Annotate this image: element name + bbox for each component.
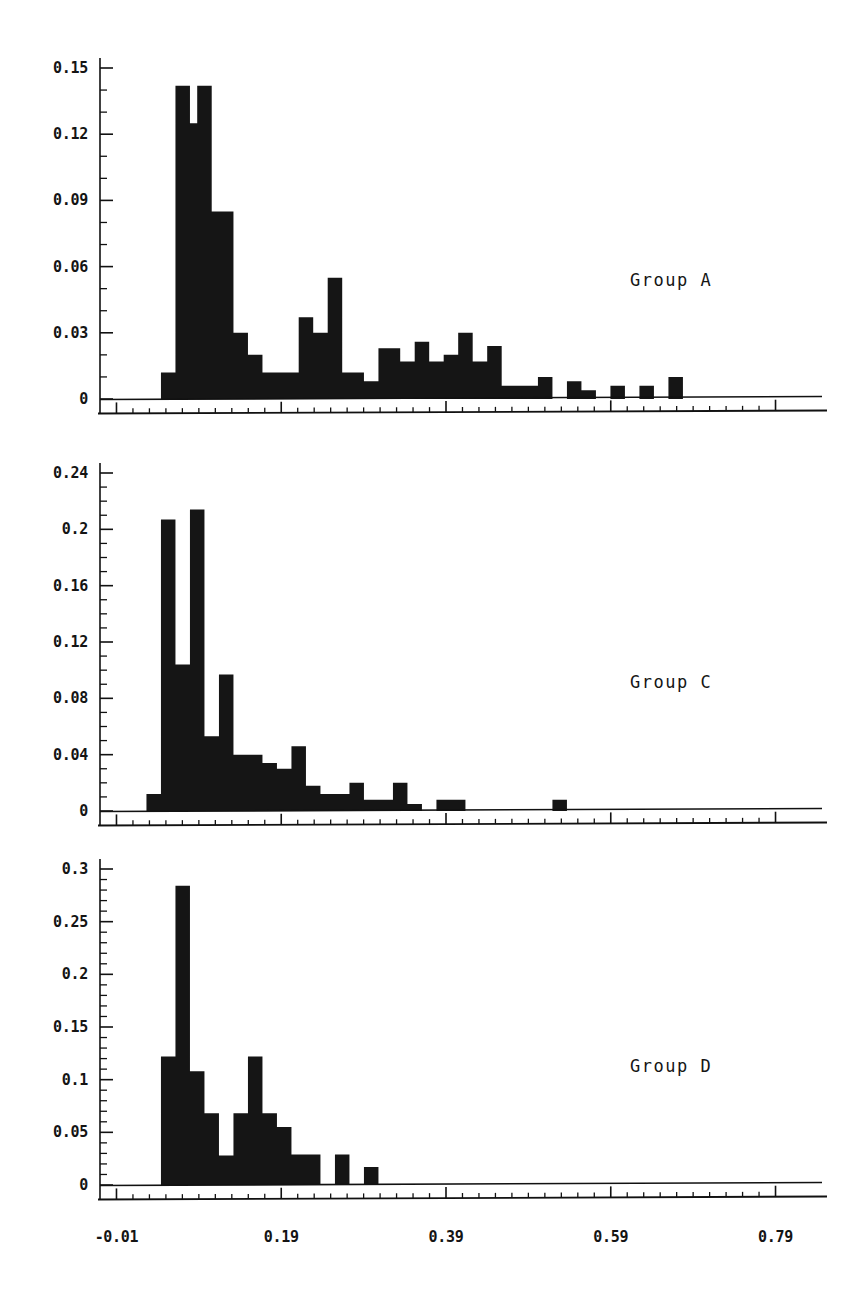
x-tick-label: -0.01 <box>76 1228 156 1246</box>
histogram-bars <box>132 86 741 399</box>
y-tick-label: 0.12 <box>53 633 88 651</box>
y-tick-label: 0.12 <box>53 125 88 143</box>
group-label-d: Group D <box>630 1056 712 1076</box>
y-tick-label: 0.05 <box>53 1123 88 1141</box>
y-tick-label: 0 <box>79 802 88 820</box>
y-tick-label: 0.24 <box>53 464 88 482</box>
plot-area-group-c <box>0 430 868 840</box>
plot-area-group-a <box>0 0 868 430</box>
y-tick-label: 0.3 <box>62 860 88 878</box>
y-tick-label: 0.06 <box>53 258 88 276</box>
y-tick-label: 0 <box>79 390 88 408</box>
y-tick-label: 0.08 <box>53 689 88 707</box>
x-tick-label: 0.19 <box>241 1228 321 1246</box>
y-tick-label: 0.25 <box>53 913 88 931</box>
y-tick-label: 0.1 <box>62 1071 88 1089</box>
y-tick-label: 0 <box>79 1176 88 1194</box>
x-tick-label: 0.79 <box>736 1228 816 1246</box>
group-label-a: Group A <box>630 270 712 290</box>
group-label-c: Group C <box>630 672 712 692</box>
histogram-bars <box>132 510 741 811</box>
panel-group-c: Group C <box>0 430 868 840</box>
y-tick-label: 0.15 <box>53 59 88 77</box>
x-tick-label: 0.59 <box>571 1228 651 1246</box>
histogram-bars <box>132 886 741 1185</box>
panel-group-a: Group A <box>0 0 868 430</box>
x-tick-label: 0.39 <box>406 1228 486 1246</box>
y-tick-label: 0.09 <box>53 191 88 209</box>
histogram-figure: Group A Group C Group D 0.150.120.090.06… <box>0 0 868 1299</box>
y-tick-label: 0.2 <box>62 965 88 983</box>
y-tick-label: 0.03 <box>53 324 88 342</box>
y-tick-label: 0.2 <box>62 520 88 538</box>
y-tick-label: 0.16 <box>53 577 88 595</box>
y-tick-label: 0.15 <box>53 1018 88 1036</box>
y-tick-label: 0.04 <box>53 746 88 764</box>
